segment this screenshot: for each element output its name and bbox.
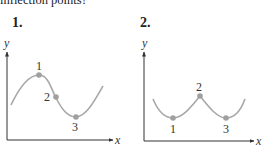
point-label-1-1: 1 bbox=[36, 59, 42, 73]
point-label-2-2: 2 bbox=[196, 80, 202, 94]
graph-1: y x 1 2 3 bbox=[3, 36, 121, 147]
point-2-1 bbox=[170, 115, 176, 121]
point-label-2-3: 3 bbox=[223, 122, 229, 136]
x-axis-label-1: x bbox=[114, 133, 121, 147]
graphs-figure: y x 1 2 3 y x 1 2 3 bbox=[0, 0, 262, 148]
point-label-2-1: 1 bbox=[170, 122, 176, 136]
point-1-2 bbox=[53, 94, 59, 100]
y-axis-label-2: y bbox=[141, 36, 148, 50]
graph-2: y x 1 2 3 bbox=[141, 36, 262, 148]
point-label-1-3: 3 bbox=[72, 120, 78, 134]
y-axis-label-1: y bbox=[3, 36, 10, 50]
point-2-2 bbox=[197, 93, 203, 99]
point-2-3 bbox=[223, 115, 229, 121]
point-label-1-2: 2 bbox=[44, 90, 50, 104]
x-axis-label-2: x bbox=[255, 134, 262, 148]
curve-2 bbox=[153, 96, 245, 118]
point-1-3 bbox=[73, 114, 79, 120]
point-1-1 bbox=[36, 72, 42, 78]
